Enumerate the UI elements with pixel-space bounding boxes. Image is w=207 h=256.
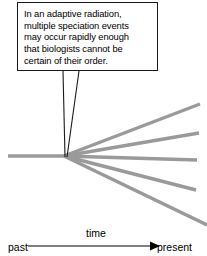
axis-label-time: time xyxy=(86,228,106,239)
lineage-branch-2 xyxy=(64,133,199,156)
lineage-branch-4 xyxy=(64,156,196,190)
axis-label-past: past xyxy=(8,242,28,253)
callout-text: In an adaptive radiation, multiple speci… xyxy=(18,3,157,67)
callout-leader-line-right xyxy=(67,71,79,157)
callout-box: In an adaptive radiation, multiple speci… xyxy=(17,2,158,71)
time-axis: past time present xyxy=(0,228,207,256)
figure-root: In an adaptive radiation, multiple speci… xyxy=(0,0,207,256)
callout-leader-line-left xyxy=(63,71,65,157)
lineage-branch-1 xyxy=(64,104,200,156)
lineage-branch-5 xyxy=(64,156,207,225)
axis-label-present: present xyxy=(157,242,192,253)
